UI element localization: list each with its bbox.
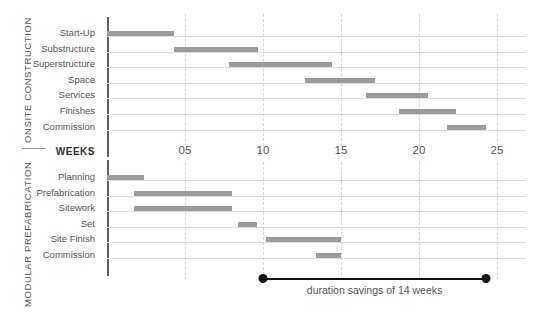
task-label-superstructure: Superstructure [0,59,95,69]
task-label-sitework: Sitework [0,203,95,213]
x-tick-label-25: 25 [491,144,504,156]
weeks-axis: WEEKS 0510152025 [0,142,550,164]
task-row-baseline [107,227,526,228]
task-row-baseline [107,114,526,115]
task-label-site-finish: Site Finish [0,234,95,244]
gridline-week-25 [497,14,499,146]
task-bar-finishes [399,109,457,114]
gridline-week-20 [419,14,421,146]
task-row-baseline [107,180,526,181]
task-bar-space [305,78,375,83]
task-label-commission: Commission [0,250,95,260]
task-bar-prefabrication [134,191,232,196]
savings-end-marker [482,274,491,283]
gridline-week-15 [341,162,343,280]
task-label-substructure: Substructure [0,44,95,54]
x-tick-label-15: 15 [335,144,348,156]
gridline-week-5 [185,14,187,146]
task-label-prefabrication: Prefabrication [0,188,95,198]
task-row-baseline [107,258,526,259]
savings-start-marker [259,274,268,283]
task-bar-substructure [174,47,258,52]
x-tick-label-5: 05 [179,144,192,156]
x-tick-label-10: 10 [257,144,270,156]
gridline-week-10 [263,14,265,146]
gantt-chart-figure: ONSITE CONSTRUCTION MODULAR PREFABRICATI… [0,0,550,313]
task-row-baseline [107,242,526,243]
task-row-baseline [107,98,526,99]
weeks-axis-label: WEEKS [0,146,95,157]
y-axis-line-onsite [107,17,109,157]
task-label-finishes: Finishes [0,106,95,116]
task-bar-planning [107,175,144,180]
task-label-set: Set [0,219,95,229]
duration-savings-annotation: duration savings of 14 weeks [0,272,550,312]
task-bar-start-up [107,31,174,36]
task-row-baseline [107,83,526,84]
chart-panel-modular: PlanningPrefabricationSiteworkSetSite Fi… [0,164,550,276]
savings-caption: duration savings of 14 weeks [307,284,442,296]
gridline-week-5 [185,162,187,280]
task-bar-sitework [134,206,232,211]
savings-span-line [263,278,486,280]
gridline-week-10 [263,162,265,280]
task-row-baseline [107,211,526,212]
task-label-commission: Commission [0,122,95,132]
task-row-baseline [107,196,526,197]
task-row-baseline [107,52,526,53]
task-row-baseline [107,67,526,68]
task-row-baseline [107,36,526,37]
task-label-planning: Planning [0,172,95,182]
task-label-start-up: Start-Up [0,28,95,38]
task-bar-services [366,93,428,98]
task-label-services: Services [0,90,95,100]
task-label-space: Space [0,75,95,85]
chart-panel-onsite: Start-UpSubstructureSuperstructureSpaceS… [0,16,550,142]
gridline-week-25 [497,162,499,280]
task-row-baseline [107,130,526,131]
gridline-week-20 [419,162,421,280]
task-bar-superstructure [229,62,332,67]
task-bar-commission [316,253,341,258]
task-bar-site-finish [266,237,341,242]
x-tick-label-20: 20 [413,144,426,156]
task-bar-commission [447,125,486,130]
task-bar-set [238,222,257,227]
